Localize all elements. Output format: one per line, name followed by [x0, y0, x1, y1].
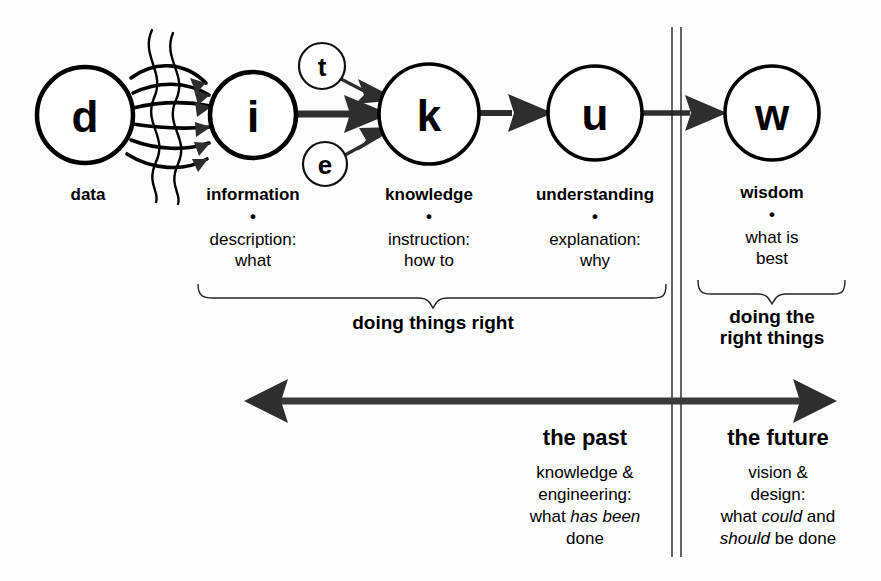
diagram-svg: d i k u w t e data information kn — [0, 0, 881, 581]
svg-text:design:: design: — [751, 485, 806, 504]
past-future-axis — [244, 379, 837, 423]
right-brace — [698, 280, 845, 304]
desc-information-1: description: — [210, 230, 297, 249]
node-t-letter: t — [318, 52, 327, 82]
bullet-wisdom: • — [769, 205, 775, 224]
dikw-diagram-canvas: d i k u w t e data information kn — [0, 0, 881, 581]
desc-understanding-2: why — [579, 251, 611, 270]
node-t[interactable]: t — [299, 43, 345, 89]
desc-wisdom-1: what is — [745, 228, 799, 247]
node-i[interactable]: i — [210, 72, 296, 158]
future-line-4-seg-2: be done — [770, 529, 836, 548]
past-line-4-seg-1: done — [566, 529, 604, 548]
bullet-understanding: • — [592, 207, 598, 226]
node-w-letter: w — [754, 90, 790, 139]
label-data: data — [71, 185, 107, 204]
data-to-information-arrows — [127, 66, 211, 172]
node-e[interactable]: e — [303, 142, 347, 186]
future-line-1-seg-1: vision & — [748, 463, 808, 482]
understanding-to-wisdom-arrow — [642, 95, 727, 131]
future-line-3-seg-2: could — [761, 507, 802, 526]
vertical-double-rule — [672, 27, 681, 557]
desc-understanding-1: explanation: — [549, 230, 641, 249]
desc-wisdom-2: best — [756, 249, 788, 268]
label-wisdom: wisdom — [739, 183, 803, 202]
node-w[interactable]: w — [725, 66, 819, 160]
caption-doing-the-right-things-2: right things — [720, 327, 824, 348]
label-information: information — [206, 185, 300, 204]
node-u[interactable]: u — [548, 66, 642, 160]
svg-text:what has been: what has been — [529, 507, 641, 526]
node-d[interactable]: d — [37, 67, 133, 163]
desc-knowledge-1: instruction: — [388, 230, 470, 249]
svg-text:vision &: vision & — [748, 463, 808, 482]
svg-text:done: done — [566, 529, 604, 548]
past-line-3-seg-2: has been — [570, 507, 640, 526]
node-i-letter: i — [247, 92, 259, 141]
heading-the-past: the past — [543, 425, 628, 450]
future-line-3-seg-3: and — [802, 507, 835, 526]
past-line-1-seg-1: knowledge & — [536, 463, 634, 482]
node-k-letter: k — [417, 91, 442, 140]
future-line-4-seg-1: should — [720, 529, 771, 548]
svg-text:engineering:: engineering: — [538, 485, 632, 504]
desc-information-2: what — [234, 251, 271, 270]
svg-text:knowledge &: knowledge & — [536, 463, 634, 482]
caption-doing-the-right-things-1: doing the — [729, 306, 814, 327]
node-e-letter: e — [318, 150, 332, 180]
node-u-letter: u — [582, 90, 609, 139]
desc-knowledge-2: how to — [404, 251, 454, 270]
label-understanding: understanding — [536, 185, 654, 204]
heading-the-future: the future — [727, 425, 828, 450]
caption-doing-things-right: doing things right — [352, 312, 514, 333]
left-brace — [198, 284, 666, 308]
wavy-filter-lines — [149, 30, 181, 204]
future-description: vision & design: what could and should b… — [720, 463, 836, 548]
label-knowledge: knowledge — [385, 185, 473, 204]
bullet-knowledge: • — [426, 207, 432, 226]
svg-text:should be done: should be done — [720, 529, 836, 548]
svg-text:what could and: what could and — [720, 507, 835, 526]
future-line-2-seg-1: design: — [751, 485, 806, 504]
future-line-3-seg-1: what — [720, 507, 762, 526]
past-line-3-seg-1: what — [529, 507, 571, 526]
past-description: knowledge & engineering: what has been d… — [529, 463, 641, 548]
node-d-letter: d — [72, 92, 99, 141]
bullet-information: • — [250, 207, 256, 226]
node-k[interactable]: k — [379, 64, 479, 164]
past-line-2-seg-1: engineering: — [538, 485, 632, 504]
knowledge-to-understanding-arrow — [479, 94, 553, 132]
